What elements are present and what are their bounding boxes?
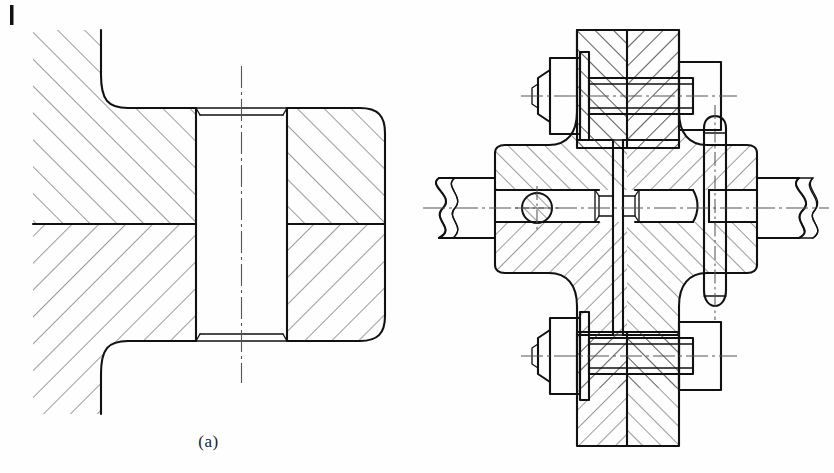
- right-shaft-end-face: [693, 190, 698, 222]
- left-housing-outline: [101, 30, 196, 108]
- figure-b: (b): [417, 0, 834, 473]
- figure-a-svg: [0, 0, 417, 473]
- drawing-sheet: (a): [0, 0, 834, 473]
- taper-pin: [704, 105, 726, 320]
- left-housing-outline-lower: [101, 341, 196, 414]
- figure-a-caption: (a): [0, 432, 417, 452]
- figure-b-svg: [417, 0, 834, 473]
- upper-bolt: [521, 30, 737, 148]
- lower-bolt: [521, 312, 737, 446]
- figure-a: (a): [0, 0, 417, 473]
- page-edge-tick: [10, 5, 14, 25]
